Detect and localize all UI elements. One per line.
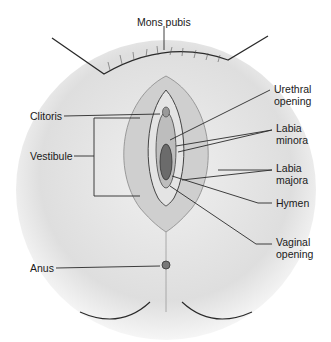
label-vaginal-opening: Vaginal opening — [276, 236, 313, 260]
label-urethral-opening: Urethral opening — [274, 83, 311, 107]
label-labia-majora-line1: Labia — [276, 162, 308, 174]
label-vestibule: Vestibule — [30, 150, 73, 162]
label-labia-minora: Labia minora — [276, 122, 308, 146]
label-urethral-opening-line2: opening — [274, 95, 311, 107]
label-vaginal-opening-line1: Vaginal — [276, 236, 313, 248]
vaginal-opening-shape — [160, 144, 172, 180]
label-anus: Anus — [30, 262, 54, 274]
clitoris-shape — [163, 107, 170, 117]
label-labia-majora-line2: majora — [276, 174, 308, 186]
anus-shape — [162, 261, 170, 269]
label-labia-minora-line1: Labia — [276, 122, 308, 134]
label-labia-minora-line2: minora — [276, 134, 308, 146]
label-clitoris: Clitoris — [30, 110, 62, 122]
label-hymen: Hymen — [276, 197, 309, 209]
label-urethral-opening-line1: Urethral — [274, 83, 311, 95]
label-labia-majora: Labia majora — [276, 162, 308, 186]
label-vaginal-opening-line2: opening — [276, 248, 313, 260]
label-mons-pubis: Mons pubis — [137, 16, 191, 28]
